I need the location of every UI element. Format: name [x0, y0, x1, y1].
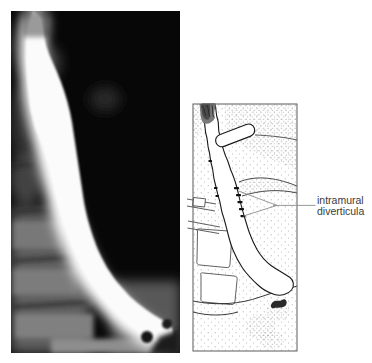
figure-panel: intramural diverticula	[0, 0, 372, 363]
radiograph-image	[11, 11, 180, 353]
annotation-line-2: diverticula	[317, 206, 364, 217]
annotation-label: intramural diverticula	[317, 195, 364, 216]
anatomical-diagram	[186, 100, 316, 355]
annotation-line-1: intramural	[317, 195, 364, 206]
